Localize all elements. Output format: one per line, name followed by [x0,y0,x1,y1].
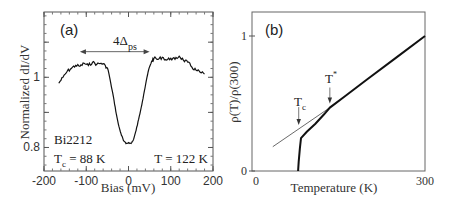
y-tick-label: 0 [241,164,247,178]
tc-arrow-head [297,119,301,125]
panel-a-y-ticks: 0.81 [23,70,213,154]
panel-a-label: (a) [60,21,78,38]
y-tick-label: 0.8 [23,140,40,154]
panel-a: -200-1000100200 0.81 (a) 4Δps Bi2212 Tc … [17,12,223,195]
panel-a-series-line [59,56,205,143]
panel-b-y-axis-label: ρ(T)/ρ(300) [226,61,241,122]
gap-arrow-head-right [144,49,150,54]
x-tick-label: 100 [161,174,181,188]
panel-b: 0300 01 (b) Tc T* Temperature (K) ρ(T)/ρ… [226,12,434,195]
sample-label: Bi2212 [54,132,92,147]
panel-b-resistivity-line [298,36,425,171]
gap-arrow-head-left [80,49,86,54]
panel-a-y-axis-label: Normalized dI/dV [17,44,32,140]
tc-annotation: Tc [294,94,306,125]
temperature-label: T = 122 K [154,151,208,166]
tc-label: Tc = 88 K [54,151,106,169]
tstar-annotation-label: T* [325,70,337,86]
tc-annotation-label: Tc [294,94,306,112]
x-tick-label: 200 [203,174,223,188]
panel-b-y-ticks: 01 [241,29,255,178]
y-tick-label: 1 [241,29,247,43]
x-tick-label: 300 [416,174,434,188]
tstar-arrow-head [328,98,332,104]
x-tick-label: -100 [74,174,98,188]
panel-b-x-axis-label: Temperature (K) [291,180,378,195]
x-tick-label: 0 [253,174,259,188]
panel-b-label: (b) [265,21,283,38]
panel-a-x-axis-label: Bias (mV) [101,180,156,195]
y-tick-label: 1 [33,70,40,84]
tstar-annotation: T* [325,70,337,104]
gap-annotation: 4Δps [80,33,150,54]
gap-label: 4Δps [113,33,137,52]
x-tick-label: -200 [32,174,56,188]
figure: -200-1000100200 0.81 (a) 4Δps Bi2212 Tc … [0,0,451,208]
